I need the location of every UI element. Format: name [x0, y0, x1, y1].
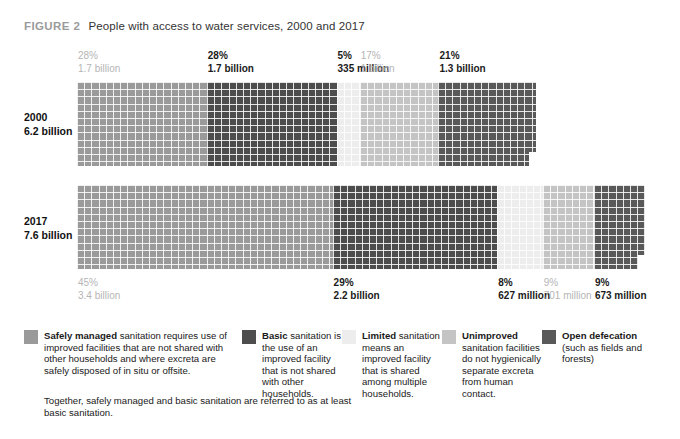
legend-item-open_defecation[interactable]: Open defecation (such as fields and fore…	[542, 330, 652, 400]
waffle-grid-overlay	[207, 82, 337, 166]
value-label-2017-unimproved: 9%701 million	[544, 277, 592, 302]
row-total-2000: 6.2 billion	[24, 124, 72, 138]
value-label-count: 673 million	[595, 290, 647, 303]
row-label-2017: 2017 7.6 billion	[24, 214, 72, 242]
bar-segment-unimproved	[543, 185, 594, 269]
value-label-count: 3.4 billion	[78, 290, 120, 303]
legend-text-open_defecation: Open defecation (such as fields and fore…	[562, 330, 652, 365]
bar-segment-unimproved	[360, 82, 439, 166]
bar-segment-open_defecation	[594, 185, 645, 269]
value-label-2017-limited: 8%627 million	[498, 277, 550, 302]
waffle-grid-overlay	[543, 185, 594, 269]
value-label-percent: 45%	[78, 277, 120, 290]
value-label-2017-open_defecation: 9%673 million	[595, 277, 647, 302]
legend-text-safely_managed: Safely managed sanitation requires use o…	[44, 330, 242, 376]
value-label-percent: 17%	[361, 50, 395, 63]
waffle-grid-overlay	[360, 82, 439, 166]
value-label-count: 1 billion	[361, 63, 395, 76]
figure-container: FIGURE 2 People with access to water ser…	[0, 0, 680, 439]
value-label-count: 627 million	[498, 290, 550, 303]
legend-swatch-unimproved	[442, 330, 456, 344]
figure-label: FIGURE 2	[24, 20, 80, 32]
figure-title: People with access to water services, 20…	[89, 20, 365, 32]
bar-tail-notch	[529, 152, 536, 166]
legend-term-suffix: sanitation	[396, 330, 440, 341]
value-label-percent: 29%	[334, 277, 380, 290]
row-label-2000: 2000 6.2 billion	[24, 110, 72, 138]
legend-text-unimproved: Unimproved sanitation facilities do not …	[462, 330, 542, 400]
legend-description: (such as fields and forests)	[562, 342, 642, 365]
value-label-count: 1.7 billion	[78, 63, 120, 76]
waffle-grid-overlay	[337, 82, 360, 166]
legend-note: Together, safely managed and basic sanit…	[44, 395, 374, 419]
value-label-2000-unimproved: 17%1 billion	[361, 50, 395, 75]
bar-segment-limited	[497, 185, 542, 269]
legend-description: sanitation facilities do not hygienicall…	[462, 342, 541, 399]
bar-segment-basic	[207, 82, 337, 166]
value-label-2000-open_defecation: 21%1.3 billion	[440, 50, 486, 75]
legend-text-limited: Limited sanitation means an improved fac…	[362, 330, 442, 400]
legend-item-limited[interactable]: Limited sanitation means an improved fac…	[342, 330, 442, 400]
legend-items: Safely managed sanitation requires use o…	[24, 330, 664, 400]
value-label-2017-basic: 29%2.2 billion	[334, 277, 380, 302]
legend-swatch-open_defecation	[542, 330, 556, 344]
waffle-grid-overlay	[77, 185, 333, 269]
value-label-percent: 9%	[544, 277, 592, 290]
waffle-bar-2017	[77, 185, 645, 269]
legend-item-safely_managed[interactable]: Safely managed sanitation requires use o…	[24, 330, 242, 400]
bar-segment-open_defecation	[438, 82, 535, 166]
value-label-count: 1.7 billion	[208, 63, 254, 76]
value-label-2000-safely_managed: 28%1.7 billion	[78, 50, 120, 75]
value-label-percent: 8%	[498, 277, 550, 290]
waffle-grid-overlay	[333, 185, 498, 269]
legend-text-basic: Basic sanitation is the use of an improv…	[262, 330, 342, 400]
value-label-count: 2.2 billion	[334, 290, 380, 303]
legend-term: Safely managed	[44, 330, 117, 341]
value-label-2000-basic: 28%1.7 billion	[208, 50, 254, 75]
bar-tail-notch	[638, 255, 645, 269]
legend-swatch-limited	[342, 330, 356, 344]
bar-segment-basic	[333, 185, 498, 269]
legend-swatch-basic	[242, 330, 256, 344]
legend-swatch-safely_managed	[24, 330, 38, 344]
waffle-grid-overlay	[438, 82, 535, 166]
legend-term-suffix: sanitation	[288, 330, 332, 341]
legend-term: Unimproved	[462, 330, 518, 341]
row-year-2017: 2017	[24, 214, 72, 228]
legend-term: Open defecation	[562, 330, 637, 341]
row-year-2000: 2000	[24, 110, 72, 124]
value-label-percent: 28%	[208, 50, 254, 63]
legend-description: means an improved facility that is share…	[362, 342, 431, 399]
bar-segment-safely_managed	[77, 82, 207, 166]
waffle-grid-overlay	[497, 185, 542, 269]
value-label-count: 701 million	[544, 290, 592, 303]
bar-segment-limited	[337, 82, 360, 166]
value-label-percent: 28%	[78, 50, 120, 63]
value-label-count: 1.3 billion	[440, 63, 486, 76]
legend-item-unimproved[interactable]: Unimproved sanitation facilities do not …	[442, 330, 542, 400]
legend-term: Limited	[362, 330, 396, 341]
bar-segment-safely_managed	[77, 185, 333, 269]
figure-title-bar: FIGURE 2 People with access to water ser…	[24, 20, 365, 32]
row-total-2017: 7.6 billion	[24, 228, 72, 242]
value-label-2017-safely_managed: 45%3.4 billion	[78, 277, 120, 302]
waffle-bar-2000	[77, 82, 540, 166]
value-label-percent: 21%	[440, 50, 486, 63]
legend: Safely managed sanitation requires use o…	[24, 330, 664, 400]
legend-item-basic[interactable]: Basic sanitation is the use of an improv…	[242, 330, 342, 400]
waffle-grid-overlay	[77, 82, 207, 166]
legend-term: Basic	[262, 330, 288, 341]
value-label-percent: 9%	[595, 277, 647, 290]
